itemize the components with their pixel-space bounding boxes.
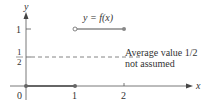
open-point-1-1 (73, 27, 77, 31)
x-axis-arrow-icon (186, 84, 193, 89)
x-tick-label-2: 2 (121, 90, 126, 101)
y-tick-label-1: 1 (16, 24, 21, 35)
function-label: y = f(x) (82, 12, 114, 24)
closed-point-1-0 (73, 84, 77, 88)
y-tick-label-half-den: 2 (17, 57, 22, 67)
y-axis-label: y (23, 1, 29, 12)
x-axis-label: x (195, 80, 201, 91)
closed-point-origin (24, 84, 28, 88)
annotation-line-2: not assumed (125, 58, 175, 69)
closed-point-2-1 (122, 27, 126, 31)
y-axis-arrow-icon (24, 12, 29, 19)
annotation-line-1: Average value 1/2 (125, 47, 198, 58)
x-tick-label-0: 0 (17, 90, 22, 101)
x-tick-label-1: 1 (72, 90, 77, 101)
y-tick-label-half-num: 1 (17, 47, 22, 57)
step-function-diagram: y x 1 1 2 0 1 2 y = f(x) Average value 1… (0, 0, 217, 112)
